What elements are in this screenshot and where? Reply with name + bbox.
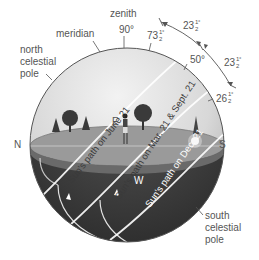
svg-text:2: 2 — [228, 98, 232, 104]
zenith-angle-label: 90° — [119, 24, 134, 35]
svg-text:73: 73 — [147, 30, 159, 41]
zenith-label: zenith — [110, 8, 137, 19]
east-label: E — [112, 116, 119, 127]
north-label: N — [14, 139, 21, 150]
celestial-sphere-diagram: Sun's path on June 21 Sun's path on Mar.… — [0, 0, 259, 260]
svg-text:2: 2 — [195, 26, 199, 32]
tilt-lower-label: 23 1 2 ° — [224, 56, 242, 69]
svg-text:23: 23 — [224, 57, 236, 68]
south-celestial-pole-label: south celestial pole — [196, 207, 241, 245]
meridian-pointer — [93, 41, 100, 52]
svg-text:celestial: celestial — [205, 222, 241, 233]
june-altitude-label: 73 1 2 ° — [147, 29, 165, 51]
svg-text:south: south — [205, 210, 229, 221]
meridian-label: meridian — [56, 28, 94, 39]
svg-text:celestial: celestial — [20, 56, 56, 67]
svg-text:°: ° — [198, 19, 201, 25]
west-label: W — [134, 175, 144, 186]
north-celestial-pole-label: north celestial pole — [20, 44, 56, 80]
svg-text:pole: pole — [205, 234, 224, 245]
svg-text:50°: 50° — [190, 54, 205, 65]
tilt-upper-label: 23 1 2 ° — [183, 19, 201, 32]
svg-text:2: 2 — [159, 36, 163, 42]
svg-text:26: 26 — [216, 93, 228, 104]
svg-text:°: ° — [239, 56, 242, 62]
svg-text:23: 23 — [183, 20, 195, 31]
svg-text:2: 2 — [236, 63, 240, 69]
svg-text:north: north — [20, 44, 43, 55]
svg-text:°: ° — [162, 29, 165, 35]
svg-text:°: ° — [231, 91, 234, 97]
equinox-altitude-label: 50° — [184, 54, 205, 70]
svg-text:pole: pole — [20, 68, 39, 79]
south-label: S — [219, 139, 226, 150]
